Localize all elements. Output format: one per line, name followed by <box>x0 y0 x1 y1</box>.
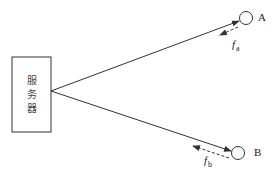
force-a-subscript: a <box>236 44 240 53</box>
server-char-1: 服 <box>27 74 37 88</box>
node-b-label: B <box>254 146 261 158</box>
diagram-canvas: 服 务 器 A B fa fb <box>0 0 280 177</box>
server-char-2: 务 <box>27 88 37 102</box>
link-to-a <box>51 21 239 91</box>
server-char-3: 器 <box>27 102 37 116</box>
force-a-label: fa <box>232 38 240 50</box>
force-b-label: fb <box>204 154 212 166</box>
link-to-b <box>51 91 231 151</box>
force-a-arrow <box>220 27 238 35</box>
force-b-symbol: f <box>204 154 207 166</box>
force-b-subscript: b <box>208 160 212 169</box>
server-label: 服 务 器 <box>12 57 51 132</box>
node-b-circle <box>232 147 245 160</box>
node-a-label: A <box>258 11 266 23</box>
node-a-circle <box>240 12 253 25</box>
force-a-symbol: f <box>232 38 235 50</box>
